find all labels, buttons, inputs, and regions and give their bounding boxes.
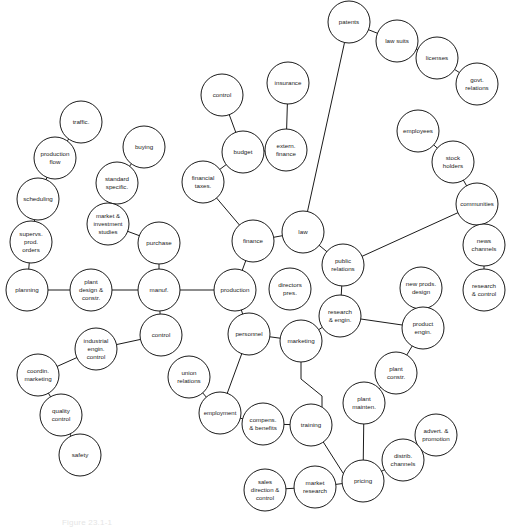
node-plant_mainten[interactable]: plantmainten. [343, 382, 385, 424]
node-circle-control_top[interactable] [201, 74, 243, 116]
node-law_suits[interactable]: law suits [376, 20, 418, 62]
node-sales_dir[interactable]: salesdirection &control [244, 469, 286, 511]
node-control_manuf[interactable]: control [140, 314, 182, 356]
node-circle-marketing[interactable] [280, 320, 322, 362]
node-extern_finance[interactable]: extern.finance [265, 129, 307, 171]
node-licenses[interactable]: licenses [416, 37, 458, 79]
node-circle-production[interactable] [214, 269, 256, 311]
node-circle-extern_finance[interactable] [265, 129, 307, 171]
node-circle-govt_relations[interactable] [456, 63, 498, 105]
node-circle-supervs_prod[interactable] [10, 221, 52, 263]
node-circle-law_suits[interactable] [376, 20, 418, 62]
node-circle-research_engin[interactable] [319, 295, 361, 337]
node-circle-production_flow[interactable] [34, 137, 76, 179]
node-supervs_prod[interactable]: supervs.prod.orders [10, 221, 52, 263]
node-circle-employment[interactable] [199, 392, 241, 434]
node-product_engin[interactable]: productengin. [402, 307, 444, 349]
node-circle-safety[interactable] [59, 434, 101, 476]
node-news_channels[interactable]: newschannels [463, 224, 505, 266]
node-circle-buying[interactable] [123, 126, 165, 168]
node-compens[interactable]: compens.& benefits [242, 403, 284, 445]
node-buying[interactable]: buying [123, 126, 165, 168]
node-market_invest[interactable]: market &investmentstudies [87, 203, 129, 245]
node-purchase[interactable]: purchase [138, 222, 180, 264]
node-plant_constr[interactable]: plantconstr. [375, 352, 417, 394]
node-research_engin[interactable]: research& engin. [319, 295, 361, 337]
node-directors_pres[interactable]: directorspres. [269, 268, 311, 310]
node-circle-new_prods[interactable] [400, 267, 442, 309]
node-control_top[interactable]: control [201, 74, 243, 116]
node-new_prods[interactable]: new prods.design [400, 267, 442, 309]
node-ind_engin_ctrl[interactable]: industrialengin.control [75, 328, 117, 370]
node-training[interactable]: training [290, 404, 332, 446]
node-circle-budget[interactable] [222, 131, 264, 173]
node-circle-sales_dir[interactable] [244, 469, 286, 511]
node-circle-finance[interactable] [232, 220, 274, 262]
node-distrib_chan[interactable]: distrib.channels [382, 439, 424, 481]
node-pricing[interactable]: pricing [342, 460, 384, 502]
node-circle-control_manuf[interactable] [140, 314, 182, 356]
node-planning[interactable]: planning [6, 269, 48, 311]
node-circle-directors_pres[interactable] [269, 268, 311, 310]
node-circle-scheduling[interactable] [17, 178, 59, 220]
node-production_flow[interactable]: productionflow [34, 137, 76, 179]
node-circle-pricing[interactable] [342, 460, 384, 502]
node-production[interactable]: production [214, 269, 256, 311]
node-circle-ind_engin_ctrl[interactable] [75, 328, 117, 370]
node-circle-market_invest[interactable] [87, 203, 129, 245]
node-circle-stock_holders[interactable] [432, 141, 474, 183]
node-circle-traffic[interactable] [60, 101, 102, 143]
node-circle-research_ctrl[interactable] [463, 269, 505, 311]
node-circle-patents[interactable] [328, 1, 370, 43]
node-union_rel[interactable]: unionrelations [168, 356, 210, 398]
node-circle-training[interactable] [290, 404, 332, 446]
node-manuf[interactable]: manuf. [138, 269, 180, 311]
node-circle-product_engin[interactable] [402, 307, 444, 349]
node-circle-licenses[interactable] [416, 37, 458, 79]
node-circle-personnel[interactable] [228, 313, 270, 355]
node-circle-standard_spec[interactable] [96, 162, 138, 204]
node-finance[interactable]: finance [232, 220, 274, 262]
node-circle-coordin_mktg[interactable] [17, 354, 59, 396]
node-personnel[interactable]: personnel [228, 313, 270, 355]
node-plant_design[interactable]: plantdesign &constr. [70, 269, 112, 311]
node-insurance[interactable]: insurance [267, 62, 309, 104]
node-govt_relations[interactable]: govt.relations [456, 63, 498, 105]
node-traffic[interactable]: traffic. [60, 101, 102, 143]
node-circle-insurance[interactable] [267, 62, 309, 104]
node-research_ctrl[interactable]: research& control [463, 269, 505, 311]
node-budget[interactable]: budget [222, 131, 264, 173]
node-market_research[interactable]: marketresearch [294, 466, 336, 508]
node-stock_holders[interactable]: stockholders [432, 141, 474, 183]
node-circle-plant_design[interactable] [70, 269, 112, 311]
node-circle-union_rel[interactable] [168, 356, 210, 398]
node-scheduling[interactable]: scheduling [17, 178, 59, 220]
node-circle-quality_ctrl[interactable] [40, 394, 82, 436]
node-circle-public_rel[interactable] [322, 244, 364, 286]
node-coordin_mktg[interactable]: coordin.marketing [17, 354, 59, 396]
node-circle-financial_taxes[interactable] [182, 161, 224, 203]
node-circle-manuf[interactable] [138, 269, 180, 311]
node-safety[interactable]: safety [59, 434, 101, 476]
node-circle-plant_mainten[interactable] [343, 382, 385, 424]
node-marketing[interactable]: marketing [280, 320, 322, 362]
node-circle-communities[interactable] [456, 183, 498, 225]
node-employment[interactable]: employment [199, 392, 241, 434]
node-financial_taxes[interactable]: financialtaxes. [182, 161, 224, 203]
node-public_rel[interactable]: publicrelations [322, 244, 364, 286]
node-circle-compens[interactable] [242, 403, 284, 445]
node-communities[interactable]: communities [456, 183, 498, 225]
node-patents[interactable]: patents [328, 1, 370, 43]
node-quality_ctrl[interactable]: qualitycontrol [40, 394, 82, 436]
node-circle-distrib_chan[interactable] [382, 439, 424, 481]
node-circle-employees[interactable] [397, 110, 439, 152]
node-circle-law[interactable] [282, 211, 324, 253]
node-law[interactable]: law [282, 211, 324, 253]
node-circle-news_channels[interactable] [463, 224, 505, 266]
node-circle-market_research[interactable] [294, 466, 336, 508]
node-standard_spec[interactable]: standardspecific. [96, 162, 138, 204]
node-circle-plant_constr[interactable] [375, 352, 417, 394]
node-circle-purchase[interactable] [138, 222, 180, 264]
node-employees[interactable]: employees [397, 110, 439, 152]
node-circle-planning[interactable] [6, 269, 48, 311]
